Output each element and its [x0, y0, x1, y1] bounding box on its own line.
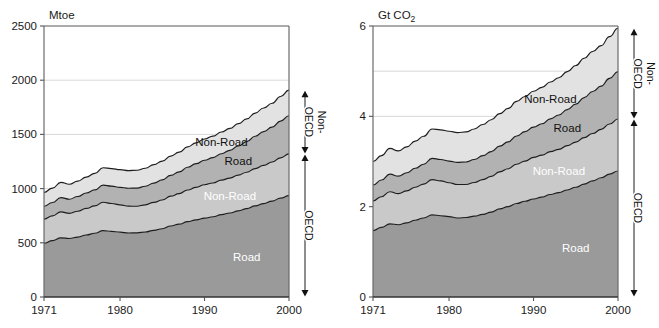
series-label: Road	[562, 242, 590, 254]
y-tick-label: 0	[31, 291, 37, 303]
y-tick-label: 0	[360, 291, 366, 303]
x-axis-ticks: 1971198019902000	[360, 297, 631, 316]
y-tick-label: 2	[360, 201, 366, 213]
bracket-label-non-oecd-main: OECD	[303, 107, 315, 138]
bracket-oecd-arrow-down	[302, 290, 309, 297]
energy-panel-svg: 050010001500200025001971198019902000Mtoe…	[0, 0, 329, 328]
y-tick-label: 6	[360, 20, 366, 32]
bracket-label-non-oecd-main: OECD	[632, 58, 644, 89]
bracket-label-non-oecd-prefix: Non-	[316, 111, 328, 134]
series-label: Road	[225, 155, 253, 167]
series-label: Road	[554, 122, 582, 134]
bracket-label-oecd: OECD	[303, 210, 315, 241]
y-tick-label: 4	[360, 110, 367, 122]
x-tick-label: 1980	[436, 304, 462, 316]
bracket-oecd-arrow-up	[631, 120, 638, 127]
chart-panel-emissions: 02461971198019902000Gt CO2RoadNon-RoadRo…	[329, 0, 658, 328]
y-tick-label: 2000	[11, 74, 37, 86]
x-tick-label: 1971	[360, 304, 386, 316]
bracket-annotations: OECDNon-OECD	[631, 29, 658, 297]
y-axis-ticks: 0246	[360, 20, 373, 303]
x-tick-label: 2000	[605, 304, 631, 316]
bracket-non-oecd-arrow-up	[302, 91, 309, 98]
unit-label-group: Mtoe	[49, 9, 75, 21]
unit-label-subscript: 2	[411, 14, 416, 24]
x-tick-label: 1990	[192, 304, 218, 316]
x-tick-label: 1980	[107, 304, 133, 316]
unit-label-group: Gt CO2	[378, 9, 416, 24]
series-label: Non-Road	[533, 165, 585, 177]
stacked-areas	[373, 28, 618, 297]
y-tick-label: 1500	[11, 128, 37, 140]
series-label: Non-Road	[204, 190, 256, 202]
bracket-oecd-arrow-up	[302, 154, 309, 161]
figure-container: 050010001500200025001971198019902000Mtoe…	[0, 0, 659, 328]
bracket-non-oecd-arrow-down	[302, 147, 309, 154]
series-label: Non-Road	[524, 93, 576, 105]
x-tick-label: 2000	[276, 304, 302, 316]
x-axis-ticks: 1971198019902000	[31, 297, 302, 316]
unit-label: Mtoe	[49, 9, 75, 21]
x-tick-label: 1971	[31, 304, 57, 316]
bracket-annotations: OECDNon-OECD	[302, 91, 329, 297]
bracket-label-oecd: OECD	[632, 193, 644, 224]
y-tick-label: 500	[18, 237, 37, 249]
bracket-non-oecd-arrow-up	[631, 29, 638, 36]
x-tick-label: 1990	[521, 304, 547, 316]
bracket-non-oecd-arrow-down	[631, 112, 638, 119]
chart-panel-energy: 050010001500200025001971198019902000Mtoe…	[0, 0, 329, 328]
emissions-panel-svg: 02461971198019902000Gt CO2RoadNon-RoadRo…	[329, 0, 658, 328]
y-tick-label: 1000	[11, 183, 37, 195]
series-label: Non-Road	[195, 136, 247, 148]
y-tick-label: 2500	[11, 20, 37, 32]
y-axis-ticks: 05001000150020002500	[11, 20, 44, 303]
unit-label: Gt CO2	[378, 9, 416, 24]
bracket-oecd-arrow-down	[631, 290, 638, 297]
bracket-label-non-oecd-prefix: Non-	[645, 62, 657, 85]
series-label: Road	[233, 251, 261, 263]
